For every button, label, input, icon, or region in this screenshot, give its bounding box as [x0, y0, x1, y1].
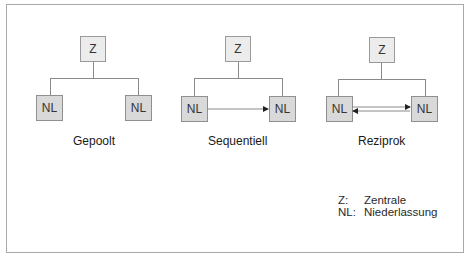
reciprocal-arrows-icon [353, 107, 410, 111]
legend-item: NL: Niederlassung [338, 206, 438, 218]
legend-key: Z: [338, 194, 364, 206]
legend: Z: Zentrale NL: Niederlassung [338, 194, 438, 218]
legend-value: Niederlassung [364, 206, 438, 218]
legend-value: Zentrale [364, 194, 406, 206]
legend-item: Z: Zentrale [338, 194, 438, 206]
flow-arrows [0, 0, 469, 261]
legend-key: NL: [338, 206, 364, 218]
